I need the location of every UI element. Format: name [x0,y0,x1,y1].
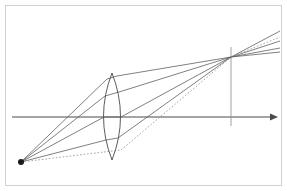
ray-diagram-canvas [0,0,287,191]
ray-diagram-figure [0,0,287,191]
figure-background [0,0,287,191]
object-point-source [18,159,24,165]
